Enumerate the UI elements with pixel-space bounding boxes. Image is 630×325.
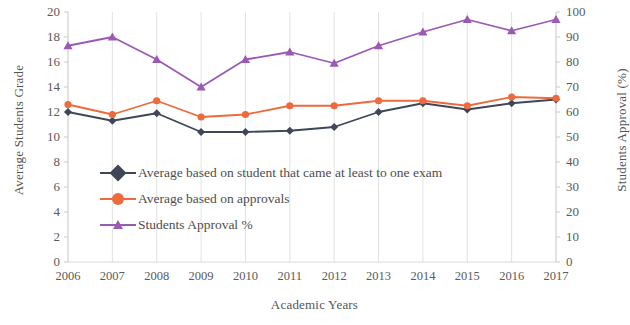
x-axis-tick-label: 2009	[179, 270, 223, 283]
data-point	[286, 127, 294, 135]
y-axis-left-tick-label: 6	[26, 180, 60, 193]
y-axis-left-tick-label: 2	[26, 230, 60, 243]
y-axis-left-tick-label: 0	[26, 255, 60, 268]
series-line-1	[68, 100, 556, 133]
data-point	[197, 113, 204, 120]
x-axis-title: Academic Years	[0, 297, 629, 313]
data-point	[152, 55, 161, 63]
y-axis-right-tick-label: 30	[566, 180, 606, 193]
data-point	[109, 111, 116, 118]
y-axis-left-title: Average Students Grade	[11, 45, 27, 215]
data-point	[464, 102, 471, 109]
data-point	[330, 123, 338, 131]
y-axis-right-tick-label: 60	[566, 105, 606, 118]
y-axis-right-tick-label: 70	[566, 80, 606, 93]
series-line-3	[68, 20, 556, 88]
data-point	[153, 97, 160, 104]
legend-key-series-2	[100, 192, 136, 206]
data-point	[508, 93, 515, 100]
data-point	[196, 82, 205, 90]
y-axis-left-tick-label: 20	[26, 5, 60, 18]
x-axis-tick-label: 2012	[312, 270, 356, 283]
data-point	[463, 15, 472, 23]
y-axis-right-title: Students Approval (%)	[614, 45, 630, 215]
data-point	[551, 15, 560, 23]
y-axis-left-tick-label: 12	[26, 105, 60, 118]
x-axis-tick-label: 2006	[46, 270, 90, 283]
y-axis-right-tick-label: 50	[566, 130, 606, 143]
legend-key-series-1	[100, 166, 136, 180]
y-axis-right-tick-label: 100	[566, 5, 606, 18]
x-axis-tick-label: 2010	[223, 270, 267, 283]
x-axis-tick-label: 2017	[534, 270, 578, 283]
x-axis-tick-label: 2008	[135, 270, 179, 283]
y-axis-right-tick-label: 20	[566, 205, 606, 218]
y-axis-right-tick-label: 0	[566, 255, 606, 268]
data-point	[419, 97, 426, 104]
y-axis-right-tick-label: 40	[566, 155, 606, 168]
chart-legend: Average based on student that came at le…	[100, 160, 442, 238]
data-point	[552, 95, 559, 102]
data-point	[285, 47, 294, 55]
data-point	[241, 128, 249, 136]
legend-label: Average based on approvals	[138, 191, 290, 207]
x-axis-tick-label: 2016	[490, 270, 534, 283]
x-axis-tick-label: 2015	[445, 270, 489, 283]
legend-label: Average based on student that came at le…	[138, 165, 442, 181]
data-point	[108, 32, 117, 40]
x-axis-tick-label: 2013	[357, 270, 401, 283]
y-axis-right-tick-label: 10	[566, 230, 606, 243]
y-axis-left-tick-label: 4	[26, 205, 60, 218]
y-axis-left-tick-label: 8	[26, 155, 60, 168]
data-point	[64, 101, 71, 108]
triangle-icon	[113, 220, 123, 229]
data-point	[286, 102, 293, 109]
y-axis-right-tick-label: 90	[566, 30, 606, 43]
legend-item[interactable]: Average based on student that came at le…	[100, 160, 442, 186]
data-point	[242, 111, 249, 118]
x-axis-tick-label: 2014	[401, 270, 445, 283]
data-point	[375, 97, 382, 104]
y-axis-left-tick-label: 10	[26, 130, 60, 143]
data-point	[197, 128, 205, 136]
x-axis-tick-label: 2011	[268, 270, 312, 283]
data-point	[64, 108, 72, 116]
data-point	[375, 108, 383, 116]
legend-key-series-3	[100, 218, 136, 232]
data-point	[153, 109, 161, 117]
legend-label: Students Approval %	[138, 217, 253, 233]
legend-item[interactable]: Students Approval %	[100, 212, 442, 238]
y-axis-right-tick-label: 80	[566, 55, 606, 68]
y-axis-left-tick-label: 16	[26, 55, 60, 68]
y-axis-left-tick-label: 14	[26, 80, 60, 93]
y-axis-left-tick-label: 18	[26, 30, 60, 43]
data-point	[331, 102, 338, 109]
x-axis-tick-label: 2007	[90, 270, 134, 283]
legend-item[interactable]: Average based on approvals	[100, 186, 442, 212]
